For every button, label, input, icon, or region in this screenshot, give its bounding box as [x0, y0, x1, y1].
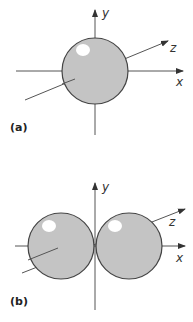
- panel-b: y z x (b): [10, 180, 185, 310]
- panel-b-label: (b): [10, 295, 28, 308]
- x-axis-label: x: [175, 75, 184, 89]
- left-lobe-highlight: [42, 220, 56, 232]
- panel-a-label: (a): [10, 121, 27, 134]
- p-orbital-lobe-left: [28, 213, 94, 279]
- orbital-diagram: y z x (a) y z x (b): [0, 0, 193, 322]
- s-orbital-sphere: [62, 38, 128, 104]
- y-axis-label: y: [101, 6, 110, 20]
- panel-a: y z x (a): [10, 6, 184, 135]
- sphere-highlight: [76, 44, 90, 56]
- z-axis-label: z: [169, 41, 177, 55]
- right-lobe-highlight: [108, 220, 122, 232]
- x-axis-label: x: [175, 251, 184, 265]
- y-axis-label: y: [101, 180, 110, 194]
- p-orbital-lobe-right: [96, 213, 162, 279]
- z-axis-label: z: [168, 215, 176, 229]
